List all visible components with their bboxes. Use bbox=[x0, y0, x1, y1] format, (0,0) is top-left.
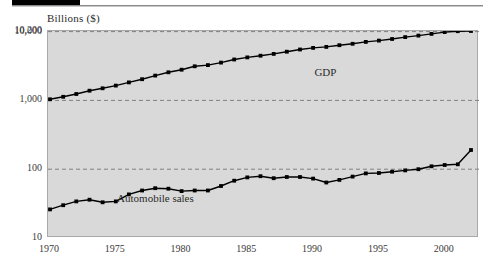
y-tick-label: 10,000 bbox=[0, 25, 42, 36]
x-tick-label: 1995 bbox=[356, 243, 400, 254]
y-tick-label: 100 bbox=[0, 162, 42, 173]
plot-svg bbox=[48, 31, 479, 238]
x-tick-label: 1990 bbox=[290, 243, 334, 254]
x-tick-label: 1980 bbox=[159, 243, 203, 254]
header-rule-shadow bbox=[12, 6, 483, 7]
y-axis-title: Billions ($) bbox=[47, 12, 100, 24]
x-tick-label: 2000 bbox=[422, 243, 466, 254]
x-tick-label: 1985 bbox=[224, 243, 268, 254]
x-tick-label: 1975 bbox=[93, 243, 137, 254]
y-tick-label: 10 bbox=[0, 231, 42, 242]
chart-figure: Billions ($) 10,20010,0001,00010010 1970… bbox=[0, 0, 495, 265]
series-label-gdp: GDP bbox=[314, 66, 336, 78]
y-tick-label: 1,000 bbox=[0, 93, 42, 104]
series-label-automobile-sales: Automobile sales bbox=[117, 192, 194, 204]
plot-area bbox=[47, 30, 478, 237]
x-tick-label: 1970 bbox=[27, 243, 71, 254]
